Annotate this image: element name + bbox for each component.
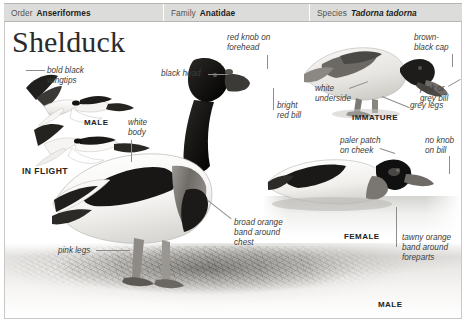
label-no-knob-on-bill: no knob on bill [425,136,454,156]
leader-bold-black-wingtips [26,70,45,71]
taxonomy-order-key: Order [11,8,32,18]
leader-pink-legs [96,250,130,251]
leader-red-knob-on-forehead [267,55,268,69]
taxonomy-species-key: Species [317,8,347,18]
label-white-underside: white underside [315,84,351,104]
taxonomy-order-cell: Order Anseriformes [4,4,164,21]
label-red-knob-on-forehead: red knob on forehead [227,33,270,53]
leader-brown-black-cap [452,54,453,67]
leader-white-body [131,140,132,162]
caption-in-flight: IN FLIGHT [22,166,68,176]
label-black-head: black head [161,69,201,79]
taxonomy-species-value: Tadorna tadorna [351,8,417,18]
label-broad-orange-band: broad orange band around chest [234,218,283,249]
field-guide-page: Order Anseriformes Family Anatidae Speci… [0,0,474,323]
label-pink-legs: pink legs [58,246,90,256]
taxonomy-order-value: Anseriformes [36,8,90,18]
taxonomy-family-value: Anatidae [200,8,235,18]
label-paler-patch-on-cheek: paler patch on cheek [340,136,381,156]
label-brown-black-cap: brown- black cap [414,33,449,53]
leader-bright-red-bill [273,88,274,110]
page-border-bottom [4,318,462,319]
label-grey-legs: grey legs [410,101,443,111]
caption-in-flight-male: MALE [84,118,108,127]
leader-black-head [208,74,228,75]
page-border-right [461,22,462,319]
caption-male: MALE [378,300,402,309]
taxonomy-family-key: Family [171,8,196,18]
taxonomy-header: Order Anseriformes Family Anatidae Speci… [4,3,462,22]
label-white-body: white body [128,118,147,138]
taxonomy-species-cell: Species Tadorna tadorna [310,4,462,21]
caption-immature: IMMATURE [352,113,398,122]
label-bright-red-bill: bright red bill [277,101,301,121]
leader-no-knob-on-bill [449,156,450,174]
label-bold-black-wingtips: bold black wingtips [47,66,84,86]
label-tawny-orange-band: tawny orange band around foreparts [402,233,451,264]
caption-female: FEMALE [344,232,380,241]
taxonomy-family-cell: Family Anatidae [164,4,310,21]
leader-tawny-orange-band [396,207,397,247]
